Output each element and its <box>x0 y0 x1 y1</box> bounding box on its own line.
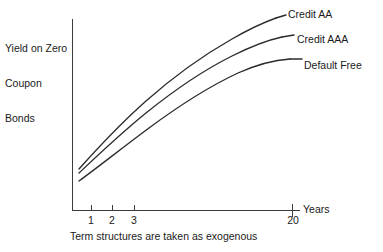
x-tick-label-1: 1 <box>83 214 99 226</box>
x-tick-label-20: 20 <box>283 214 303 226</box>
figure-caption: Term structures are taken as exogenous <box>70 231 257 243</box>
curve-credit-aaa <box>79 37 282 173</box>
y-axis-label-line-2: Coupon <box>5 78 67 90</box>
series-label-default-free: Default Free <box>304 60 362 72</box>
x-axis-label: Years <box>303 204 329 216</box>
curve-default-free <box>79 59 290 181</box>
y-axis-label-line-3: Bonds <box>5 113 67 125</box>
y-axis-label-line-1: Yield on Zero <box>5 43 67 55</box>
y-axis-label: Yield on Zero Coupon Bonds <box>5 20 67 148</box>
leader-credit-aaa <box>282 35 294 37</box>
x-tick-label-2: 2 <box>104 214 120 226</box>
x-tick-label-3: 3 <box>126 214 142 226</box>
yield-curve-figure: Yield on Zero Coupon Bonds Credit AA Cre… <box>0 0 383 252</box>
leader-credit-aa <box>276 15 286 18</box>
series-label-credit-aaa: Credit AAA <box>297 34 348 46</box>
series-label-credit-aa: Credit AA <box>288 9 332 21</box>
